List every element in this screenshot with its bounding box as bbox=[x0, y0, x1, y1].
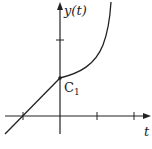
x-axis-label: t bbox=[144, 124, 150, 139]
y-axis-arrow-icon bbox=[57, 2, 63, 10]
point-c1 bbox=[58, 76, 62, 80]
linear-segment bbox=[5, 78, 60, 134]
point-label: C1 bbox=[64, 80, 80, 97]
y-axis-label: y(t) bbox=[63, 3, 87, 18]
t-axis-arrow-icon bbox=[143, 113, 151, 119]
graph: y(t) C1 t bbox=[0, 0, 152, 149]
